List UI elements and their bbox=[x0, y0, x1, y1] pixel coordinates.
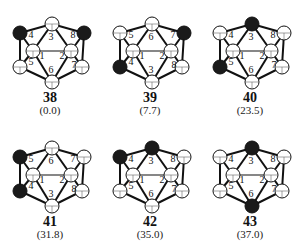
structure-40: 3481257640(23.5) bbox=[200, 0, 299, 123]
svg-text:1: 1 bbox=[140, 50, 145, 61]
svg-text:6: 6 bbox=[249, 64, 254, 75]
svg-text:5: 5 bbox=[129, 180, 134, 191]
svg-text:5: 5 bbox=[229, 56, 234, 67]
icosahedron-cluster-icon: 65712483 bbox=[0, 124, 100, 216]
svg-text:4: 4 bbox=[229, 153, 234, 164]
relative-energy: (23.5) bbox=[200, 104, 299, 116]
icosahedron-cluster-icon: 34812576 bbox=[100, 124, 200, 216]
svg-text:1: 1 bbox=[140, 174, 145, 185]
svg-text:6: 6 bbox=[49, 64, 54, 75]
svg-text:4: 4 bbox=[129, 153, 134, 164]
svg-text:7: 7 bbox=[272, 59, 277, 70]
svg-text:8: 8 bbox=[72, 183, 77, 194]
structure-38: 3481257638(0.0) bbox=[0, 0, 100, 123]
structure-42: 3481257642(35.0) bbox=[100, 124, 200, 246]
svg-text:3: 3 bbox=[149, 64, 154, 75]
icosahedron-cluster-icon: 34812576 bbox=[200, 124, 299, 216]
structure-41: 6571248341(31.8) bbox=[0, 124, 100, 246]
svg-text:8: 8 bbox=[172, 59, 177, 70]
svg-text:2: 2 bbox=[260, 50, 265, 61]
svg-text:5: 5 bbox=[129, 29, 134, 40]
relative-energy: (37.0) bbox=[200, 228, 299, 240]
svg-text:1: 1 bbox=[40, 50, 45, 61]
svg-text:2: 2 bbox=[260, 174, 265, 185]
svg-text:5: 5 bbox=[29, 56, 34, 67]
svg-text:3: 3 bbox=[49, 31, 54, 42]
svg-text:6: 6 bbox=[149, 188, 154, 199]
svg-text:7: 7 bbox=[171, 29, 176, 40]
icosahedron-cluster-icon: 34812576 bbox=[0, 0, 100, 92]
svg-text:3: 3 bbox=[149, 155, 154, 166]
svg-text:8: 8 bbox=[271, 153, 276, 164]
svg-text:5: 5 bbox=[29, 153, 34, 164]
svg-text:3: 3 bbox=[249, 155, 254, 166]
svg-text:8: 8 bbox=[71, 29, 76, 40]
svg-text:1: 1 bbox=[240, 174, 245, 185]
svg-text:2: 2 bbox=[60, 174, 65, 185]
svg-text:7: 7 bbox=[272, 183, 277, 194]
svg-text:3: 3 bbox=[249, 31, 254, 42]
relative-energy: (35.0) bbox=[100, 228, 200, 240]
svg-text:1: 1 bbox=[40, 174, 45, 185]
svg-text:3: 3 bbox=[49, 188, 54, 199]
icosahedron-cluster-icon: 34812576 bbox=[200, 0, 299, 92]
svg-text:4: 4 bbox=[229, 29, 234, 40]
structure-39: 6571248339(7.7) bbox=[100, 0, 200, 123]
relative-energy: (7.7) bbox=[100, 104, 200, 116]
svg-text:6: 6 bbox=[149, 31, 154, 42]
svg-text:4: 4 bbox=[29, 29, 34, 40]
relative-energy: (31.8) bbox=[0, 228, 100, 240]
svg-text:2: 2 bbox=[160, 50, 165, 61]
svg-text:8: 8 bbox=[171, 153, 176, 164]
svg-text:7: 7 bbox=[71, 153, 76, 164]
structure-43: 3481257643(37.0) bbox=[200, 124, 299, 246]
svg-text:6: 6 bbox=[249, 188, 254, 199]
svg-text:1: 1 bbox=[240, 50, 245, 61]
svg-text:2: 2 bbox=[160, 174, 165, 185]
svg-text:4: 4 bbox=[129, 56, 134, 67]
svg-text:6: 6 bbox=[49, 155, 54, 166]
relative-energy: (0.0) bbox=[0, 104, 100, 116]
svg-text:7: 7 bbox=[72, 59, 77, 70]
svg-text:8: 8 bbox=[271, 29, 276, 40]
svg-text:2: 2 bbox=[60, 50, 65, 61]
icosahedron-cluster-icon: 65712483 bbox=[100, 0, 200, 92]
svg-text:4: 4 bbox=[29, 180, 34, 191]
svg-text:7: 7 bbox=[172, 183, 177, 194]
svg-text:5: 5 bbox=[229, 180, 234, 191]
